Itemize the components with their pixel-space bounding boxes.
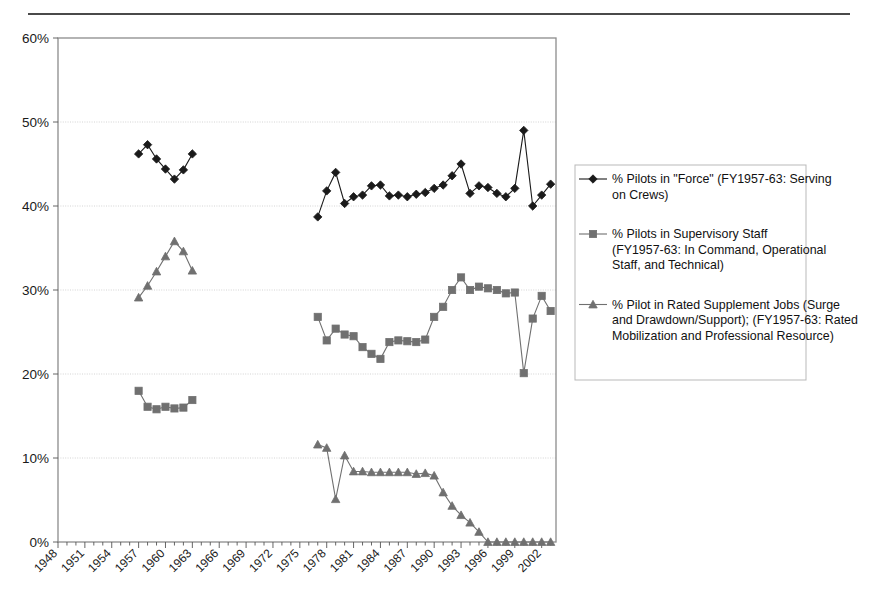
y-axis-tick-group bbox=[53, 38, 58, 542]
data-point-square bbox=[529, 315, 536, 322]
x-axis-tick-label: 1981 bbox=[327, 546, 356, 575]
x-axis-tick-label: 1951 bbox=[58, 546, 87, 575]
data-point-diamond bbox=[493, 189, 501, 197]
data-point-square bbox=[538, 292, 545, 299]
data-point-diamond bbox=[188, 150, 196, 158]
data-point-diamond bbox=[331, 168, 339, 176]
y-axis-tick-label: 20% bbox=[22, 367, 49, 382]
data-point-square bbox=[377, 355, 384, 362]
data-point-square bbox=[162, 403, 169, 410]
x-axis-tick-group bbox=[58, 542, 551, 548]
data-point-square bbox=[511, 289, 518, 296]
data-point-square bbox=[475, 283, 482, 290]
x-axis-tick-label: 1987 bbox=[381, 546, 410, 575]
data-point-square bbox=[431, 313, 438, 320]
x-axis-tick-label: 1984 bbox=[354, 546, 383, 575]
data-point-triangle bbox=[143, 282, 151, 290]
data-point-square bbox=[359, 344, 366, 351]
x-axis-tick-label: 1978 bbox=[300, 546, 329, 575]
x-axis-tick-label: 1966 bbox=[193, 546, 222, 575]
legend-label: (FY1957-63: In Command, Operational bbox=[612, 243, 826, 257]
legend-box bbox=[575, 165, 806, 380]
legend-label: and Drawdown/Support); (FY1957-63: Rated bbox=[612, 313, 858, 327]
y-axis-tick-label: 50% bbox=[22, 115, 49, 130]
data-point-diamond bbox=[457, 160, 465, 168]
data-point-square bbox=[466, 286, 473, 293]
data-point-square bbox=[422, 336, 429, 343]
y-axis-tick-label: 30% bbox=[22, 283, 49, 298]
data-point-square bbox=[386, 338, 393, 345]
x-axis-tick-label: 1960 bbox=[139, 546, 168, 575]
data-point-square bbox=[484, 285, 491, 292]
x-axis-tick-label: 1993 bbox=[434, 546, 463, 575]
data-point-diamond bbox=[323, 187, 331, 195]
data-point-square bbox=[457, 274, 464, 281]
legend-entry-3[interactable]: % Pilot in Rated Supplement Jobs (Surgea… bbox=[579, 298, 858, 343]
x-axis-tick-label: 1954 bbox=[85, 546, 114, 575]
data-point-square bbox=[350, 333, 357, 340]
data-point-square bbox=[135, 387, 142, 394]
legend-label: Staff, and Technical) bbox=[612, 258, 724, 272]
chart-legend: % Pilots in "Force" (FY1957-63: Servingo… bbox=[575, 165, 858, 380]
data-point-square bbox=[180, 404, 187, 411]
x-axis-tick-label: 1963 bbox=[166, 546, 195, 575]
data-point-diamond bbox=[421, 188, 429, 196]
data-point-diamond bbox=[314, 213, 322, 221]
data-point-square bbox=[341, 331, 348, 338]
data-point-triangle bbox=[448, 502, 456, 510]
data-point-diamond bbox=[394, 191, 402, 199]
x-axis-tick-label: 2002 bbox=[515, 546, 544, 575]
series-line bbox=[318, 130, 551, 217]
data-point-square bbox=[404, 338, 411, 345]
data-point-square bbox=[171, 405, 178, 412]
data-point-square bbox=[449, 286, 456, 293]
data-point-triangle bbox=[323, 444, 331, 452]
data-point-square bbox=[368, 350, 375, 357]
y-axis-labels: 0%10%20%30%40%50%60% bbox=[22, 31, 49, 550]
data-point-square bbox=[589, 230, 596, 237]
series-1 bbox=[134, 126, 554, 221]
data-point-triangle bbox=[152, 267, 160, 275]
data-point-diamond bbox=[484, 183, 492, 191]
legend-label: % Pilots in Supervisory Staff bbox=[612, 227, 768, 241]
data-point-square bbox=[332, 325, 339, 332]
series-3 bbox=[134, 237, 554, 545]
y-axis-tick-label: 40% bbox=[22, 199, 49, 214]
data-point-triangle bbox=[421, 469, 429, 477]
x-axis-tick-label: 1948 bbox=[31, 546, 60, 575]
x-axis-tick-label: 1975 bbox=[273, 546, 302, 575]
data-point-square bbox=[413, 338, 420, 345]
x-axis-tick-label: 1969 bbox=[219, 546, 248, 575]
data-point-diamond bbox=[520, 126, 528, 134]
data-point-diamond bbox=[430, 184, 438, 192]
data-point-diamond bbox=[403, 193, 411, 201]
series-2 bbox=[135, 274, 554, 413]
data-point-triangle bbox=[188, 266, 196, 274]
data-point-square bbox=[440, 303, 447, 310]
x-axis-tick-label: 1957 bbox=[112, 546, 141, 575]
data-point-square bbox=[547, 307, 554, 314]
data-point-triangle bbox=[331, 495, 339, 503]
legend-label: % Pilot in Rated Supplement Jobs (Surge bbox=[612, 298, 840, 312]
y-axis-tick-label: 10% bbox=[22, 451, 49, 466]
data-series-layer bbox=[134, 126, 554, 545]
chart-container: 0%10%20%30%40%50%60% 1948195119541957196… bbox=[0, 0, 878, 608]
data-point-square bbox=[144, 403, 151, 410]
legend-label: on Crews) bbox=[612, 188, 668, 202]
data-point-square bbox=[493, 286, 500, 293]
x-axis-tick-label: 1996 bbox=[461, 546, 490, 575]
x-axis-tick-label: 1990 bbox=[408, 546, 437, 575]
data-point-square bbox=[189, 396, 196, 403]
x-axis-tick-label: 1999 bbox=[488, 546, 517, 575]
data-point-square bbox=[323, 337, 330, 344]
legend-label: % Pilots in "Force" (FY1957-63: Serving bbox=[612, 172, 832, 186]
series-line bbox=[318, 445, 551, 542]
data-point-triangle bbox=[314, 440, 322, 448]
data-point-diamond bbox=[412, 190, 420, 198]
data-point-square bbox=[314, 313, 321, 320]
x-axis-tick-label: 1972 bbox=[246, 546, 275, 575]
data-point-triangle bbox=[170, 237, 178, 245]
legend-label: Mobilization and Professional Resource) bbox=[612, 329, 834, 343]
data-point-triangle bbox=[161, 252, 169, 260]
data-point-square bbox=[153, 406, 160, 413]
